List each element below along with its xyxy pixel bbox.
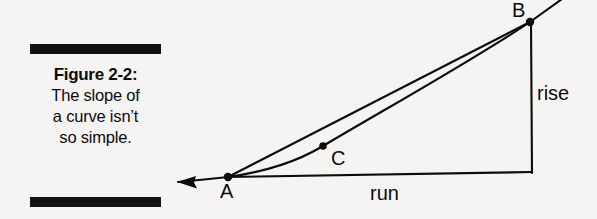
caption-line-1: The slope of xyxy=(30,85,161,106)
caption-line-2: a curve isn’t xyxy=(30,106,161,127)
figure-page: A B C rise run Figure 2-2: The slope of … xyxy=(0,0,597,219)
point-a-label: A xyxy=(220,181,233,201)
caption-rule-bottom xyxy=(30,197,161,207)
caption-line-3: so simple. xyxy=(30,127,161,148)
rise-label: rise xyxy=(537,83,569,103)
rise-line xyxy=(531,22,532,173)
point-b-label: B xyxy=(512,0,525,20)
point-c-dot xyxy=(319,142,327,150)
figure-caption-block: Figure 2-2: The slope of a curve isn’t s… xyxy=(30,40,161,210)
point-b-dot xyxy=(526,18,534,26)
caption-rule-top xyxy=(30,44,161,54)
point-c-label: C xyxy=(331,148,345,168)
figure-number-label: Figure 2-2: xyxy=(30,64,161,85)
secant-line-ab xyxy=(228,22,530,177)
run-label: run xyxy=(370,183,399,203)
curve-arrowhead-icon xyxy=(177,176,197,189)
run-line xyxy=(228,172,532,177)
curve-path xyxy=(178,0,562,182)
figure-caption-text: Figure 2-2: The slope of a curve isn’t s… xyxy=(30,64,161,148)
